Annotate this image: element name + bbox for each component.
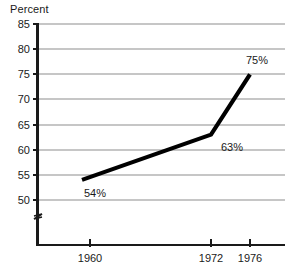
y-tick-label: 70 [8,93,30,105]
gridline [38,149,285,150]
y-tick-label: 85 [8,18,30,30]
data-point-label: 54% [84,187,106,199]
gridline [38,74,285,75]
gridline [38,24,285,25]
x-tick-label: 1960 [78,252,102,264]
gridline [38,200,285,201]
gridline [38,99,285,100]
line-chart: Percent 5055606570758085 196019721976 54… [0,0,293,274]
x-axis-line [36,244,285,246]
axis-break-icon [33,212,43,225]
y-axis-title: Percent [10,3,49,15]
y-tick-label: 60 [8,144,30,156]
x-tick-mark [210,239,212,247]
y-tick-label: 80 [8,43,30,55]
y-tick-label: 55 [8,169,30,181]
gridline [38,124,285,125]
y-tick-label: 50 [8,194,30,206]
data-point-label: 75% [246,54,268,66]
x-tick-label: 1976 [238,252,262,264]
gridline [38,174,285,175]
x-tick-mark [249,239,251,247]
y-tick-label: 75 [8,68,30,80]
data-point-label: 63% [221,141,243,153]
x-tick-label: 1972 [199,252,223,264]
data-line [0,0,293,274]
x-tick-mark [89,239,91,247]
gridline [38,49,285,50]
y-tick-label: 65 [8,119,30,131]
